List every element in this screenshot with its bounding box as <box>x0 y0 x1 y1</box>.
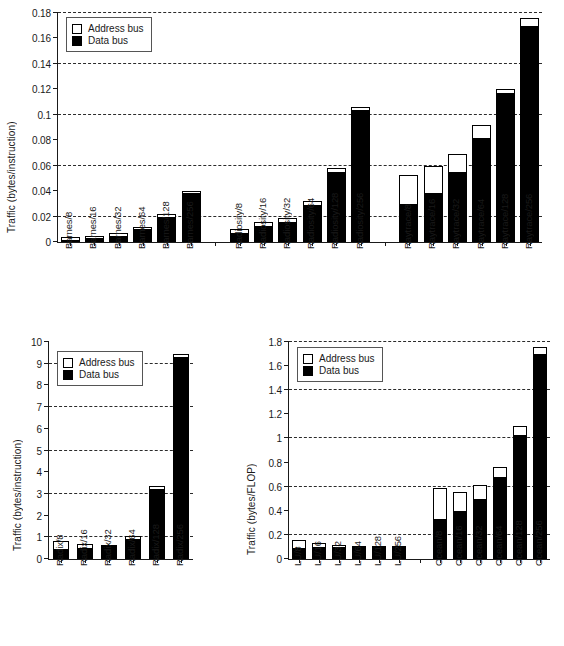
y-axis-tick <box>53 241 58 242</box>
y-axis-tick <box>53 114 58 115</box>
x-axis-tick-label: LU/16 <box>312 541 323 566</box>
y-axis-tick-label: 1 <box>37 532 42 543</box>
legend-label-data-bus: Data bus <box>88 35 128 46</box>
legend-label-address-bus: Address bus <box>319 353 375 364</box>
y-axis-tick <box>284 462 289 463</box>
x-axis-tick-label: Ocean/64 <box>493 526 504 566</box>
x-axis-tick-label: Raytrace/32 <box>450 199 461 249</box>
chart-traffic-radix: Traffic (bytes/instruction) 012345678910… <box>0 330 240 646</box>
x-axis-tick-label: Raytrace/8 <box>402 204 413 249</box>
y-axis-tick <box>284 510 289 511</box>
gridline <box>49 493 193 494</box>
y-axis-tick <box>44 428 49 429</box>
x-axis-tick-label: Radiosity/16 <box>257 198 268 249</box>
y-axis-tick <box>284 486 289 487</box>
x-axis-tick-label: Radiosity/256 <box>354 193 365 249</box>
x-axis-tick <box>215 242 216 246</box>
x-axis-tick-label: Barnes/256 <box>184 201 195 249</box>
legend-label-address-bus: Address bus <box>88 23 144 34</box>
x-axis-tick-label: Radiosity/32 <box>281 198 292 249</box>
chart-traffic-barnes-radiosity-raytrace: Traffic (bytes/instruction) 00.020.040.0… <box>0 0 564 320</box>
y-axis-tick <box>44 536 49 537</box>
x-axis-tick-label: Radix/8 <box>54 534 65 566</box>
y-axis-tick <box>53 190 58 191</box>
x-axis-tick-label: Barnes/32 <box>112 207 123 249</box>
y-axis-tick-label: 1.6 <box>268 361 282 372</box>
gridline <box>49 450 193 451</box>
x-axis-tick-label: Radix/16 <box>78 529 89 566</box>
legend-bottom-right: Address bus Data bus <box>297 347 383 382</box>
y-axis-tick-label: 6 <box>37 423 42 434</box>
y-axis-tick-label: 8 <box>37 380 42 391</box>
y-axis-tick <box>284 365 289 366</box>
x-axis-tick <box>385 242 386 246</box>
y-axis-tick <box>53 165 58 166</box>
x-axis-tick-label: LU/32 <box>332 541 343 566</box>
y-axis-tick-label: 1.8 <box>268 337 282 348</box>
y-axis-tick <box>53 12 58 13</box>
x-axis-tick-label: Ocean/16 <box>453 526 464 566</box>
y-axis-tick-label: 0.4 <box>268 505 282 516</box>
y-axis-tick <box>284 341 289 342</box>
y-axis-tick-label: 0.2 <box>268 529 282 540</box>
legend-item-data-bus: Data bus <box>72 35 144 46</box>
gridline <box>49 536 193 537</box>
x-axis-tick-label: Raytrace/128 <box>499 194 510 249</box>
legend-label-data-bus: Data bus <box>319 365 359 376</box>
legend-label-data-bus: Data bus <box>79 369 119 380</box>
address-bus-swatch-icon <box>63 358 73 368</box>
y-axis-tick <box>284 437 289 438</box>
y-axis-tick <box>44 341 49 342</box>
x-axis-tick-label: Radix/32 <box>102 529 113 566</box>
y-axis-tick-label: 0.06 <box>32 160 51 171</box>
y-axis-tick-label: 5 <box>37 445 42 456</box>
y-axis-tick-label: 0.18 <box>32 8 51 19</box>
gridline <box>58 216 542 217</box>
gridline <box>58 12 542 13</box>
y-axis-tick-label: 10 <box>31 337 42 348</box>
x-axis-tick-label: Radix/64 <box>126 529 137 566</box>
y-axis-tick-label: 0.08 <box>32 135 51 146</box>
bar-group <box>433 342 447 559</box>
x-axis-tick-label: Radix/256 <box>174 524 185 566</box>
y-axis-tick <box>44 493 49 494</box>
y-axis-tick <box>44 363 49 364</box>
y-axis-tick-label: 0.04 <box>32 186 51 197</box>
x-axis-tick-label: Barnes/128 <box>160 201 171 249</box>
y-axis-tick-label: 0.6 <box>268 481 282 492</box>
y-axis-tick <box>53 139 58 140</box>
legend-top: Address bus Data bus <box>66 17 152 52</box>
y-axis-tick <box>284 389 289 390</box>
x-axis-tick-label: Ocean/8 <box>433 531 444 566</box>
x-axis-tick-label: LU/256 <box>392 536 403 566</box>
legend-label-address-bus: Address bus <box>79 357 135 368</box>
x-axis-tick-label: Barnes/8 <box>63 212 74 249</box>
chart-traffic-lu-ocean: Traffic (bytes/FLOP) 00.20.40.60.811.21.… <box>240 330 564 646</box>
x-axis-tick-label: LU/8 <box>292 546 303 566</box>
x-axis-tick-label: Radiosity/128 <box>329 193 340 249</box>
y-axis-tick-label: 4 <box>37 467 42 478</box>
y-axis-tick-label: 3 <box>37 488 42 499</box>
y-axis-title: Traffic (bytes/instruction) <box>6 18 17 233</box>
gridline <box>289 486 550 487</box>
y-axis-tick-label: 0 <box>46 237 51 248</box>
bar-group <box>392 342 406 559</box>
x-axis-tick-label: Barnes/64 <box>136 207 147 249</box>
y-axis-tick-label: 0 <box>37 554 42 565</box>
data-bus-swatch-icon <box>72 36 82 46</box>
x-axis-tick-label: Raytrace/64 <box>475 199 486 249</box>
x-axis-tick-label: Raytrace/256 <box>523 194 534 249</box>
y-axis-tick <box>53 216 58 217</box>
y-axis-tick <box>44 515 49 516</box>
y-axis-tick-label: 0.8 <box>268 457 282 468</box>
y-axis-tick <box>44 471 49 472</box>
y-axis-tick <box>44 406 49 407</box>
y-axis-tick-label: 0.16 <box>32 33 51 44</box>
x-axis-tick-label: Barnes/16 <box>87 207 98 249</box>
x-axis-tick-label: Radiosity/8 <box>233 203 244 249</box>
x-axis-tick-label: LU/64 <box>352 541 363 566</box>
y-axis-tick <box>44 450 49 451</box>
y-axis-tick-label: 2 <box>37 510 42 521</box>
gridline <box>58 63 542 64</box>
data-bus-swatch-icon <box>303 366 313 376</box>
